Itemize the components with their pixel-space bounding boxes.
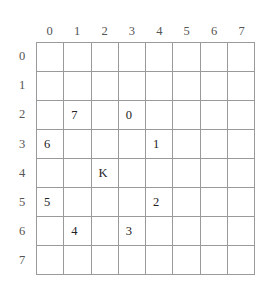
grid-cell-r6-c6[interactable] <box>201 217 228 246</box>
grid-cell-r6-c3[interactable]: 3 <box>119 217 146 246</box>
row-header-column: 01234567 <box>12 42 32 275</box>
grid-cell-r4-c3[interactable] <box>119 159 146 188</box>
grid-cell-r2-c4[interactable] <box>146 101 173 130</box>
grid-cell-r1-c4[interactable] <box>146 72 173 101</box>
grid-cell-r6-c2[interactable] <box>92 217 119 246</box>
grid-cell-r4-c5[interactable] <box>173 159 200 188</box>
grid-cell-r7-c2[interactable] <box>92 246 119 275</box>
grid-cell-r7-c6[interactable] <box>201 246 228 275</box>
grid-cell-r7-c3[interactable] <box>119 246 146 275</box>
grid-cell-r5-c5[interactable] <box>173 188 200 217</box>
grid-cell-r6-c0[interactable] <box>37 217 64 246</box>
grid-cell-r5-c4[interactable]: 2 <box>146 188 173 217</box>
grid-cell-r5-c7[interactable] <box>228 188 255 217</box>
grid-cell-r5-c1[interactable] <box>64 188 91 217</box>
grid-cell-r0-c7[interactable] <box>228 43 255 72</box>
grid-cell-r0-c1[interactable] <box>64 43 91 72</box>
grid-cell-r0-c2[interactable] <box>92 43 119 72</box>
grid-cell-r3-c3[interactable] <box>119 130 146 159</box>
grid-cell-r5-c2[interactable] <box>92 188 119 217</box>
grid-cell-r0-c6[interactable] <box>201 43 228 72</box>
grid-cell-r4-c7[interactable] <box>228 159 255 188</box>
grid-cell-r1-c1[interactable] <box>64 72 91 101</box>
column-header-row: 01234567 <box>36 22 255 40</box>
grid-cell-r0-c5[interactable] <box>173 43 200 72</box>
grid-cell-r0-c4[interactable] <box>146 43 173 72</box>
grid-cell-r2-c5[interactable] <box>173 101 200 130</box>
grid-cell-r6-c7[interactable] <box>228 217 255 246</box>
column-header-5: 5 <box>173 22 200 40</box>
grid-cell-r5-c3[interactable] <box>119 188 146 217</box>
grid-cell-r7-c4[interactable] <box>146 246 173 275</box>
row-header-0: 0 <box>12 42 32 71</box>
grid-cell-r2-c0[interactable] <box>37 101 64 130</box>
column-header-2: 2 <box>91 22 118 40</box>
grid-cell-r2-c3[interactable]: 0 <box>119 101 146 130</box>
row-header-2: 2 <box>12 100 32 129</box>
row-header-6: 6 <box>12 217 32 246</box>
column-header-1: 1 <box>63 22 90 40</box>
grid-cell-r5-c6[interactable] <box>201 188 228 217</box>
row-header-1: 1 <box>12 71 32 100</box>
column-header-7: 7 <box>228 22 255 40</box>
row-header-4: 4 <box>12 158 32 187</box>
grid-cell-r0-c3[interactable] <box>119 43 146 72</box>
grid-cell-r2-c7[interactable] <box>228 101 255 130</box>
grid-cell-r1-c0[interactable] <box>37 72 64 101</box>
grid-cell-r1-c5[interactable] <box>173 72 200 101</box>
grid-cell-r5-c0[interactable]: 5 <box>37 188 64 217</box>
column-header-3: 3 <box>118 22 145 40</box>
grid-cell-r3-c4[interactable]: 1 <box>146 130 173 159</box>
grid-cell-r2-c1[interactable]: 7 <box>64 101 91 130</box>
grid-cell-r2-c6[interactable] <box>201 101 228 130</box>
puzzle-grid-figure: 01234567 01234567 7061K5243 <box>0 0 275 293</box>
grid-cell-r3-c5[interactable] <box>173 130 200 159</box>
grid-cell-r3-c1[interactable] <box>64 130 91 159</box>
grid-cell-r6-c5[interactable] <box>173 217 200 246</box>
grid-cell-r4-c2[interactable]: K <box>92 159 119 188</box>
grid-cell-r7-c0[interactable] <box>37 246 64 275</box>
grid-cell-r4-c6[interactable] <box>201 159 228 188</box>
grid-cell-r6-c4[interactable] <box>146 217 173 246</box>
row-header-3: 3 <box>12 129 32 158</box>
column-header-6: 6 <box>200 22 227 40</box>
grid-cell-r3-c6[interactable] <box>201 130 228 159</box>
grid-cell-r7-c5[interactable] <box>173 246 200 275</box>
grid-cell-r2-c2[interactable] <box>92 101 119 130</box>
column-header-4: 4 <box>146 22 173 40</box>
grid-cell-r1-c2[interactable] <box>92 72 119 101</box>
row-header-7: 7 <box>12 246 32 275</box>
grid-cell-r6-c1[interactable]: 4 <box>64 217 91 246</box>
grid-cell-r1-c7[interactable] <box>228 72 255 101</box>
grid-board: 7061K5243 <box>36 42 255 275</box>
grid-cell-r4-c4[interactable] <box>146 159 173 188</box>
row-header-5: 5 <box>12 187 32 216</box>
grid-cell-r7-c7[interactable] <box>228 246 255 275</box>
grid-cell-r1-c6[interactable] <box>201 72 228 101</box>
grid-cell-r0-c0[interactable] <box>37 43 64 72</box>
grid-cell-r1-c3[interactable] <box>119 72 146 101</box>
grid-cell-r7-c1[interactable] <box>64 246 91 275</box>
grid-cell-r4-c1[interactable] <box>64 159 91 188</box>
grid-cell-r3-c2[interactable] <box>92 130 119 159</box>
column-header-0: 0 <box>36 22 63 40</box>
grid-cell-r4-c0[interactable] <box>37 159 64 188</box>
grid-cell-r3-c7[interactable] <box>228 130 255 159</box>
grid-cell-r3-c0[interactable]: 6 <box>37 130 64 159</box>
